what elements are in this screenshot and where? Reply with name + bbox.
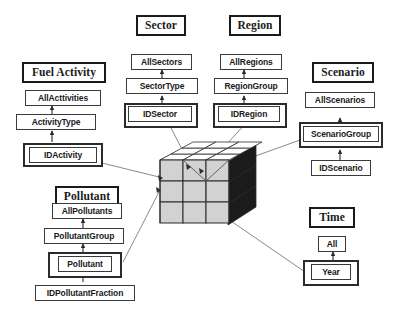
level-box-allacttivities[interactable]: AllActtivities xyxy=(25,90,101,106)
level-box-sectortype[interactable]: SectorType xyxy=(126,78,198,94)
level-box-scenariogroup[interactable]: ScenarioGroup xyxy=(303,126,379,142)
level-box-regiongroup[interactable]: RegionGroup xyxy=(214,78,288,94)
level-box-pollutantgroup[interactable]: PollutantGroup xyxy=(44,228,124,244)
level-box-year[interactable]: Year xyxy=(311,264,351,280)
dimension-title-sector: Sector xyxy=(136,15,186,36)
level-box-idactivity[interactable]: IDActivity xyxy=(29,147,97,163)
level-box-idscenario[interactable]: IDScenario xyxy=(311,160,371,176)
level-box-pollutant[interactable]: Pollutant xyxy=(58,256,112,272)
dimension-title-region: Region xyxy=(229,15,281,36)
level-box-idsector[interactable]: IDSector xyxy=(128,106,192,122)
dimension-title-time: Time xyxy=(309,207,355,228)
level-box-all[interactable]: All xyxy=(318,236,346,252)
level-box-allpollutants[interactable]: AllPollutants xyxy=(52,203,122,219)
dimension-title-scenario: Scenario xyxy=(312,62,374,83)
level-box-allscenarios[interactable]: AllScenarios xyxy=(305,92,375,108)
level-box-allregions[interactable]: AllRegions xyxy=(220,54,282,70)
dimension-title-fuel-activity: Fuel Activity xyxy=(22,62,106,83)
level-box-allsectors[interactable]: AllSectors xyxy=(131,54,192,70)
level-box-activitytype[interactable]: ActivityType xyxy=(16,114,96,130)
diagram-canvas: Fuel Activity AllActtivities ActivityTyp… xyxy=(0,0,396,320)
level-box-idregion[interactable]: IDRegion xyxy=(218,106,280,122)
level-box-idpollutantfraction[interactable]: IDPollutantFraction xyxy=(35,285,135,301)
